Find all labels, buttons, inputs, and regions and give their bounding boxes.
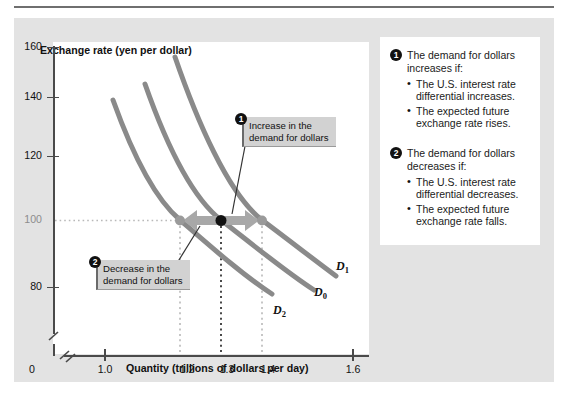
marker-1.2-100	[175, 216, 185, 226]
curve-label-D0-sub: 0	[323, 291, 327, 301]
figure-page: 1 The demand for dollars increases if: T…	[0, 0, 562, 400]
callout-2-badge: 2	[89, 256, 101, 268]
figure-panel: 1 The demand for dollars increases if: T…	[14, 18, 554, 382]
curve-label-D2-base: D	[273, 303, 282, 317]
chart-graphics	[14, 18, 554, 382]
callout-1-badge: 1	[235, 113, 247, 125]
top-divider	[14, 6, 554, 8]
curve-label-D2-sub: 2	[282, 309, 286, 319]
marker-1.3-100	[216, 215, 227, 226]
callout-1-line2: demand for dollars	[249, 132, 332, 144]
callout-2-line1: Decrease in the	[103, 263, 186, 275]
callout-increase-demand: Increase in the demand for dollars	[242, 117, 336, 147]
curve-label-D1: D1	[336, 259, 349, 275]
callout-1-line1: Increase in the	[249, 120, 332, 132]
axis-break-marks	[49, 332, 75, 362]
curve-D1	[175, 57, 336, 276]
callout-decrease-demand: Decrease in the demand for dollars	[96, 260, 190, 290]
curve-label-D0-base: D	[314, 285, 323, 299]
marker-1.4-100	[257, 216, 267, 226]
curve-label-D1-sub: 1	[345, 265, 349, 275]
curve-label-D0: D0	[314, 285, 327, 301]
curve-label-D2: D2	[273, 303, 286, 319]
curve-label-D1-base: D	[336, 259, 345, 273]
callout-2-line2: demand for dollars	[103, 275, 186, 287]
